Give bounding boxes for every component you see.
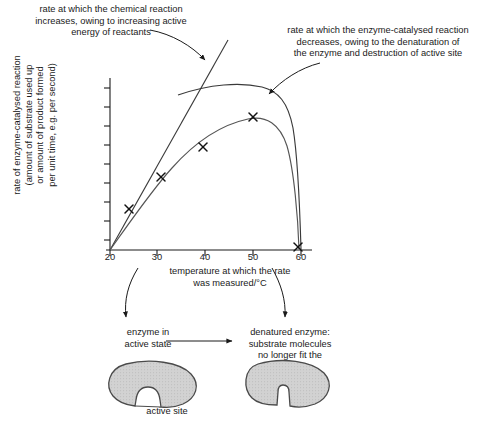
leader-arrow-chemical-reaction [150,30,205,60]
leader-arrow-denaturation [269,63,320,94]
x-axis-ticks [110,250,301,256]
arrow-to-denatured-enzyme [272,268,285,317]
enzyme-temperature-figure: rate at which the chemical reaction incr… [0,0,477,428]
data-point-markers [125,113,302,251]
data-point-40 [199,143,207,151]
data-point-51 [249,113,257,121]
y-axis-ticks [104,88,110,240]
series-theoretical-curve [178,84,301,249]
arrow-to-active-enzyme [126,268,139,317]
enzyme-blob-active [109,361,196,407]
enzyme-blob-denatured [246,361,329,407]
series-chemical-reaction-line [110,40,228,250]
chart-axes [104,78,312,256]
data-point-20 [125,205,133,213]
figure-graphics [0,0,477,428]
series-enzyme-catalysed-curve [110,118,299,250]
